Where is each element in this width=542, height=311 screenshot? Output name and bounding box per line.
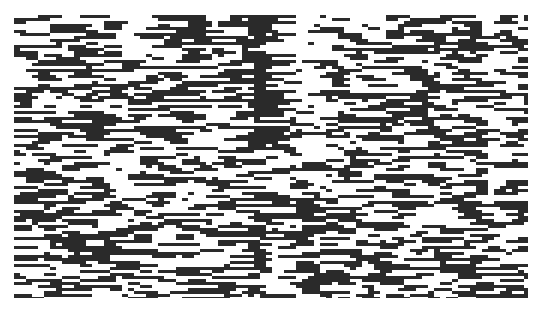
binary-raster-plot	[14, 15, 528, 298]
raster-canvas	[14, 15, 528, 298]
